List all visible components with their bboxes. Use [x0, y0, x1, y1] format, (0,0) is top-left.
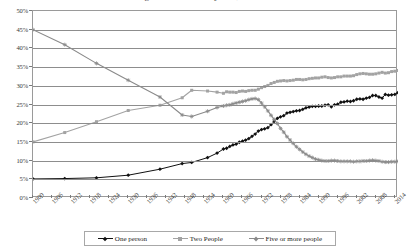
data-point-marker [215, 105, 219, 109]
gridline [33, 123, 396, 124]
data-point-marker [355, 97, 359, 101]
data-point-marker [317, 76, 320, 79]
data-point-marker [181, 96, 184, 99]
data-point-marker [222, 92, 225, 95]
x-minor-tick [232, 196, 233, 198]
data-point-marker [289, 79, 292, 82]
data-point-marker [294, 145, 298, 149]
data-point-marker [244, 90, 247, 93]
legend-label: Five or more people [266, 235, 323, 243]
data-point-marker [180, 113, 184, 117]
y-tick-label: 35% [16, 63, 28, 70]
data-point-marker [127, 109, 130, 112]
data-point-marker [387, 71, 390, 74]
data-point-marker [158, 167, 162, 171]
data-point-marker [279, 79, 282, 82]
data-point-marker [374, 94, 378, 98]
y-tick-label: 50% [16, 7, 28, 14]
y-tick-label: 0% [20, 194, 28, 201]
data-point-marker [216, 91, 219, 94]
data-point-marker [279, 115, 283, 119]
data-point-marker [339, 75, 342, 78]
x-minor-tick [175, 196, 176, 198]
data-point-marker [330, 76, 333, 79]
data-point-marker [314, 76, 317, 79]
data-point-marker [320, 76, 323, 79]
data-point-marker [307, 105, 311, 109]
y-tick-label: 10% [16, 156, 28, 163]
data-point-marker [346, 75, 349, 78]
data-point-marker [235, 91, 238, 94]
data-point-marker [352, 74, 355, 77]
x-minor-tick [213, 196, 214, 198]
data-point-marker [260, 128, 264, 132]
x-minor-tick [384, 196, 385, 198]
data-point-marker [254, 89, 257, 92]
data-point-marker [270, 82, 273, 85]
x-minor-tick [346, 196, 347, 198]
x-minor-tick [99, 196, 100, 198]
y-tick-label: 40% [16, 44, 28, 51]
data-point-marker [377, 95, 381, 99]
y-tick-label: 30% [16, 81, 28, 88]
data-point-marker [361, 97, 365, 101]
data-point-marker [206, 109, 210, 113]
data-point-marker [225, 90, 228, 93]
legend-marker-icon [173, 235, 188, 242]
gridline [33, 142, 396, 143]
data-point-marker [292, 79, 295, 82]
data-point-marker [358, 97, 362, 101]
data-point-marker [266, 109, 270, 113]
data-point-marker [231, 143, 235, 147]
data-point-marker [190, 89, 193, 92]
data-point-marker [180, 162, 184, 166]
data-point-marker [295, 78, 298, 81]
data-point-marker [298, 109, 302, 113]
data-point-marker [263, 127, 267, 131]
gridline [33, 105, 396, 106]
x-minor-tick [327, 196, 328, 198]
data-point-marker [364, 96, 368, 100]
y-tick-label: 25% [16, 100, 28, 107]
data-point-marker [355, 73, 358, 76]
data-point-marker [374, 72, 377, 75]
x-minor-tick [308, 196, 309, 198]
x-minor-tick [365, 196, 366, 198]
x-minor-tick [80, 196, 81, 198]
data-point-marker [368, 73, 371, 76]
data-point-marker [190, 114, 194, 118]
data-point-marker [397, 69, 399, 72]
data-point-marker [365, 72, 368, 75]
plot-area [32, 10, 397, 197]
data-point-marker [304, 106, 308, 110]
data-point-marker [311, 77, 314, 80]
legend-item[interactable]: One person [98, 235, 147, 243]
data-point-marker [301, 150, 305, 154]
legend-item[interactable]: Five or more people [249, 235, 323, 243]
data-point-marker [301, 107, 305, 111]
data-point-marker [251, 89, 254, 92]
data-point-marker [333, 76, 336, 79]
data-point-marker [206, 90, 209, 93]
legend-item[interactable]: Two People [173, 235, 223, 243]
series-line [33, 70, 398, 141]
data-point-marker [343, 75, 346, 78]
legend-label: Two People [190, 235, 223, 243]
data-point-marker [390, 70, 393, 73]
data-point-marker [288, 110, 292, 114]
gridline [33, 179, 396, 180]
data-point-marker [342, 100, 346, 104]
data-point-marker [393, 70, 396, 73]
data-point-marker [384, 72, 387, 75]
data-point-marker [358, 72, 361, 75]
data-point-marker [295, 109, 299, 113]
data-point-marker [348, 100, 352, 104]
data-point-marker [308, 77, 311, 80]
data-point-marker [362, 72, 365, 75]
x-minor-tick [270, 196, 271, 198]
data-point-marker [324, 75, 327, 78]
data-point-marker [257, 88, 260, 91]
gridline [33, 30, 396, 31]
data-point-marker [352, 99, 356, 103]
legend-label: One person [115, 235, 147, 243]
